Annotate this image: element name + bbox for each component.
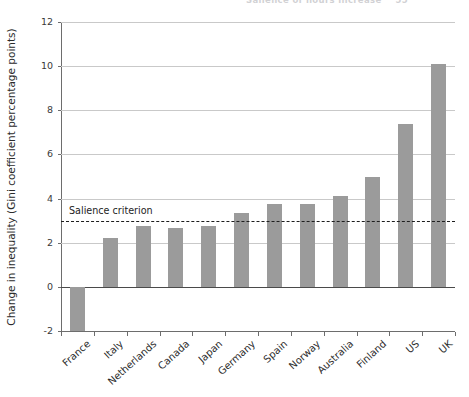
gridline xyxy=(61,110,455,111)
x-axis-category-label: Australia xyxy=(315,338,355,376)
x-axis-tick-mark xyxy=(94,332,95,336)
x-axis-category-label: UK xyxy=(436,338,454,355)
x-axis-category-label: US xyxy=(404,338,422,355)
x-axis-category-label: Finland xyxy=(354,338,388,370)
y-axis-tick-label: 6 xyxy=(47,149,53,159)
y-axis-tick-label: 8 xyxy=(47,105,53,115)
x-axis-category-label: France xyxy=(61,338,93,368)
y-axis-ticks: -2024681012 xyxy=(0,22,61,331)
bar-chart-figure: Change in inequality (Gini coefficient p… xyxy=(0,0,469,397)
y-axis-line xyxy=(61,22,62,331)
gridline xyxy=(61,243,455,244)
bar xyxy=(300,204,315,287)
y-axis-tick-label: 4 xyxy=(47,194,53,204)
x-axis-tick-mark xyxy=(192,332,193,336)
x-axis-category-label: Canada xyxy=(156,338,192,372)
x-axis-tick-mark xyxy=(258,332,259,336)
bar xyxy=(70,287,85,331)
gridline xyxy=(61,154,455,155)
bar xyxy=(267,204,282,287)
y-axis-tick-label: 2 xyxy=(47,238,53,248)
plot-area: Salience criterion xyxy=(61,22,455,331)
gridline xyxy=(61,199,455,200)
y-axis-tick-label: -2 xyxy=(44,326,53,336)
x-axis-tick-mark xyxy=(357,332,358,336)
y-axis-tick-label: 12 xyxy=(41,17,53,27)
bar xyxy=(431,64,446,287)
x-axis-tick-mark xyxy=(324,332,325,336)
x-axis-labels: FranceItalyNetherlandsCanadaJapanGermany… xyxy=(61,332,455,396)
salience-criterion-line xyxy=(61,221,455,222)
bar xyxy=(365,177,380,287)
x-axis-category-label: Italy xyxy=(102,338,125,361)
y-axis-tick-label: 0 xyxy=(47,282,53,292)
x-axis-category-label: Japan xyxy=(196,338,224,365)
bar xyxy=(333,196,348,286)
y-axis-tick-label: 10 xyxy=(41,61,53,71)
x-axis-tick-mark xyxy=(455,332,456,336)
bar xyxy=(398,124,413,287)
x-axis-tick-mark xyxy=(225,332,226,336)
x-axis-tick-mark xyxy=(422,332,423,336)
x-axis-tick-mark xyxy=(291,332,292,336)
bar xyxy=(201,226,216,287)
x-axis-tick-mark xyxy=(61,332,62,336)
zero-axis-line xyxy=(61,287,455,288)
bar xyxy=(234,213,249,287)
x-axis-tick-mark xyxy=(389,332,390,336)
bar xyxy=(103,238,118,287)
x-axis-tick-mark xyxy=(160,332,161,336)
bar xyxy=(136,226,151,287)
x-axis-tick-mark xyxy=(127,332,128,336)
salience-criterion-label: Salience criterion xyxy=(69,205,153,216)
x-axis-category-label: Spain xyxy=(262,338,290,365)
bar xyxy=(168,228,183,286)
gridline xyxy=(61,22,455,23)
gridline xyxy=(61,66,455,67)
